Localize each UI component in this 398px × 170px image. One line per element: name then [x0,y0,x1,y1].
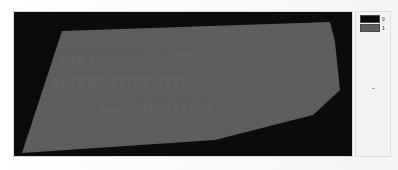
mask-raster-canvas: THE LOCATION AND ALTERNATIVE SITE DOCUME… [14,12,352,156]
legend-entry-value-1[interactable]: 1 [360,24,385,32]
mask-raster-panel[interactable]: THE LOCATION AND ALTERNATIVE SITE DOCUME… [14,12,352,156]
legend-swatch-value-1 [360,24,380,32]
legend-tick-mark [372,88,375,89]
segmented-region-polygon [22,22,340,153]
mask-value-legend[interactable]: 0 1 [356,12,390,156]
legend-swatch-value-0 [360,15,380,23]
mask-region-svg [14,12,352,156]
figure-root: THE LOCATION AND ALTERNATIVE SITE DOCUME… [0,0,398,170]
legend-label-value-1: 1 [382,26,385,31]
legend-entry-value-0[interactable]: 0 [360,15,385,23]
legend-label-value-0: 0 [382,17,385,22]
